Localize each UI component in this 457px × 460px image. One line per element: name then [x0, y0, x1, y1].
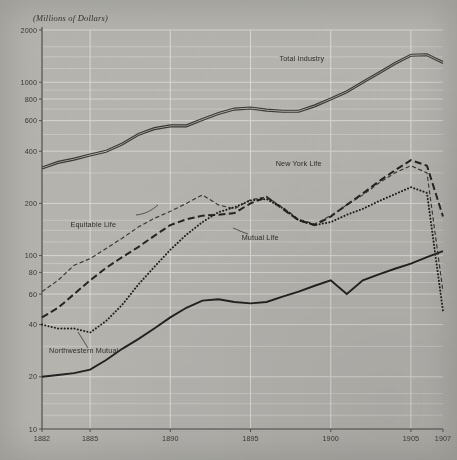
x-tick-label: 1900 — [323, 434, 339, 443]
axes-group — [39, 27, 443, 432]
x-tick-label: 1907 — [435, 434, 451, 443]
x-tick-label: 1885 — [82, 434, 98, 443]
y-tick-label: 1000 — [21, 78, 37, 87]
gridlines-group — [42, 30, 443, 429]
series-label-total-industry: Total Industry — [279, 54, 324, 63]
series-label-leader-line — [233, 228, 248, 234]
y-tick-label: 400 — [25, 147, 37, 156]
y-tick-label: 100 — [25, 251, 37, 260]
y-tick-label: 200 — [25, 199, 37, 208]
y-tick-label: 10 — [29, 425, 37, 434]
x-tick-label: 1890 — [162, 434, 178, 443]
y-tick-label: 800 — [25, 95, 37, 104]
series-label-equitable-life: Equitable Life — [70, 220, 116, 229]
x-tick-label: 1882 — [34, 434, 50, 443]
x-tick-label: 1895 — [242, 434, 258, 443]
series-label-leader-line — [136, 205, 158, 215]
series-line-total-industry-lower — [42, 56, 443, 169]
y-tick-label: 600 — [25, 116, 37, 125]
y-tick-label: 80 — [29, 268, 37, 277]
y-tick-label: 60 — [29, 290, 37, 299]
line-chart: 200010008006004002001008060402010 188218… — [0, 0, 457, 460]
series-line-total-industry-upper — [42, 54, 443, 167]
y-tick-labels: 200010008006004002001008060402010 — [21, 26, 37, 434]
y-tick-label: 2000 — [21, 26, 37, 35]
series-label-northwestern-mutual: Northwestern Mutual — [49, 346, 118, 355]
series-label-mutual-life: Mutual Life — [242, 233, 279, 242]
y-tick-label: 40 — [29, 320, 37, 329]
chart-page: 200010008006004002001008060402010 188218… — [0, 0, 457, 460]
series-label-new-york-life: New York Life — [276, 159, 322, 168]
y-tick-label: 20 — [29, 372, 37, 381]
x-tick-label: 1905 — [403, 434, 419, 443]
y-axis-unit-caption: (Millions of Dollars) — [33, 13, 108, 23]
x-tick-labels: 1882188518901895190019051907 — [34, 434, 451, 443]
series-group — [42, 54, 443, 377]
